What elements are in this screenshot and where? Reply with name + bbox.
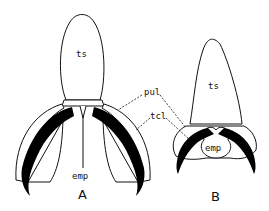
tarsus-diagram (0, 0, 269, 211)
tcl-leader-a (136, 118, 150, 130)
panel-a-empodium-label: emp (72, 172, 88, 181)
diagram-root: ts emp A pul tcl ts emp B (0, 0, 269, 211)
panel-b-label: B (211, 190, 220, 203)
panel-b-empodium-label: emp (205, 144, 221, 153)
panel-a-tarsus-label: ts (76, 50, 87, 59)
pulvillus-label: pul (144, 88, 160, 97)
pul-leader-a (118, 95, 142, 110)
panel-b-tarsus-label: ts (208, 82, 219, 91)
tarsal-claw-label: tcl (150, 112, 166, 121)
panel-a-collar (62, 100, 104, 106)
panel-a-label: A (78, 188, 87, 201)
